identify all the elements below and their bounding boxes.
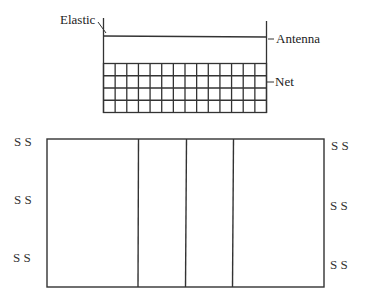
court-divider-2 (186, 139, 187, 287)
net-assembly (98, 18, 274, 113)
left-marker-top: S S (14, 134, 32, 149)
net-label: Net (275, 74, 294, 89)
net-grid (104, 64, 267, 113)
antenna-label: Antenna (276, 31, 320, 46)
elastic-pointer (98, 22, 106, 33)
court (47, 139, 324, 287)
right-marker-top: S S (331, 138, 349, 153)
court-divider-1 (138, 139, 139, 287)
right-marker-middle: S S (330, 198, 348, 213)
elastic-label: Elastic (60, 12, 96, 27)
top-tape (104, 36, 267, 37)
left-marker-bottom: S S (13, 250, 31, 265)
volleyball-diagram: Elastic Antenna Net S S S S S S S S S S … (0, 0, 365, 299)
left-marker-middle: S S (14, 192, 32, 207)
right-marker-bottom: S S (330, 257, 348, 272)
court-divider-3 (233, 139, 234, 287)
